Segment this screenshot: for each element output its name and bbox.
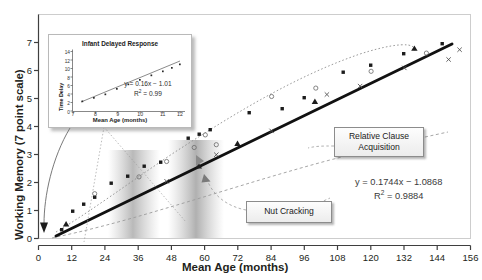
callout-relative-clause-line1: Relative Clause <box>341 131 417 142</box>
x-tick-36: 36 <box>127 253 149 263</box>
inset-equation: y = 0.16x − 1.01 <box>111 80 185 87</box>
inset-r-squared: R2 = 0.99 <box>111 89 185 97</box>
shaded-band-1 <box>108 150 160 238</box>
y-tick-4: 4 <box>18 122 32 132</box>
y-tick-5: 5 <box>18 94 32 104</box>
x-tick-48: 48 <box>160 253 182 263</box>
callout-nut-cracking[interactable]: Nut Cracking <box>246 201 332 223</box>
x-tick-0: 0 <box>28 253 50 263</box>
x-tick-24: 24 <box>94 253 116 263</box>
inset-x-axis <box>73 112 186 114</box>
main-r-squared: R2 = 0.9884 <box>355 190 442 201</box>
inset-r2-value: = 0.99 <box>142 90 162 97</box>
y-tick-1: 1 <box>18 206 32 216</box>
shaded-band-2 <box>168 140 224 238</box>
y-tick-7: 7 <box>18 38 32 48</box>
x-tick-120: 120 <box>360 253 382 263</box>
inset-y-axis <box>71 50 73 112</box>
y-axis <box>34 15 39 239</box>
x-tick-156: 156 <box>460 253 482 263</box>
callout-relative-clause-acquisition[interactable]: Relative Clause Acquisition <box>334 127 424 157</box>
x-tick-96: 96 <box>293 253 315 263</box>
x-tick-132: 132 <box>393 253 415 263</box>
y-tick-0: 0 <box>18 234 32 244</box>
y-tick-6: 6 <box>18 66 32 76</box>
x-axis <box>39 246 471 251</box>
x-tick-12: 12 <box>61 253 83 263</box>
x-tick-108: 108 <box>327 253 349 263</box>
y-tick-2: 2 <box>18 178 32 188</box>
r2-value: = 0.9884 <box>384 191 423 201</box>
y-tick-3: 3 <box>18 150 32 160</box>
inset-chart-panel: Infant Delayed Response Time Delay Mean … <box>48 34 192 128</box>
main-regression-annotation: y = 0.1744x − 1.0868 R2 = 0.9884 <box>355 178 442 205</box>
inset-regression-annotation: y = 0.16x − 1.01 R2 = 0.99 <box>111 80 185 99</box>
x-tick-144: 144 <box>426 253 448 263</box>
callout-nut-cracking-label: Nut Cracking <box>253 206 325 217</box>
callout-relative-clause-line2: Acquisition <box>341 142 417 153</box>
r2-label: R <box>374 191 381 201</box>
main-equation: y = 0.1744x − 1.0868 <box>355 178 442 187</box>
x-axis-title: Mean Age (months) <box>182 262 288 274</box>
